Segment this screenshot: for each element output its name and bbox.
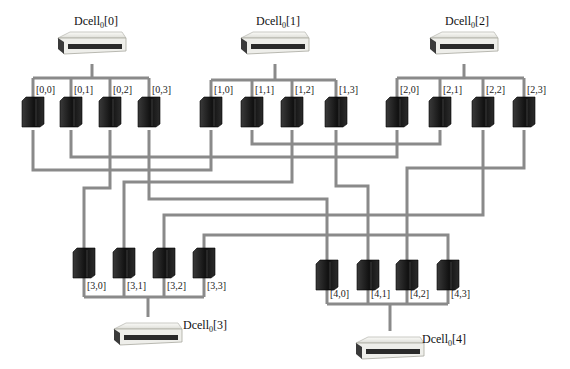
server-label: [2,2] [486, 84, 505, 95]
server-icon [429, 97, 451, 127]
server-icon [99, 97, 121, 127]
server-label: [3,0] [87, 280, 106, 291]
server-label: [4,0] [330, 288, 349, 299]
server-icon [472, 97, 494, 127]
switch-label-name: Dcell [74, 14, 100, 28]
server-icon [513, 97, 535, 127]
server-label: [3,3] [207, 280, 226, 291]
server-label: [4,1] [371, 288, 390, 299]
server-icon [73, 248, 95, 278]
servers [22, 97, 535, 290]
server-label: [2,3] [527, 84, 546, 95]
switch-label-name: Dcell [445, 14, 471, 28]
switch-label: Dcell0[4] [422, 332, 466, 348]
dcell-diagram [0, 0, 570, 369]
server-icon [200, 97, 222, 127]
switch-icon [114, 323, 182, 345]
switch-label-name: Dcell [256, 14, 282, 28]
server-icon [325, 97, 347, 127]
link-[0,3]-[4,0] [149, 130, 327, 262]
switch-label: Dcell0[2] [445, 14, 489, 30]
server-label: [3,1] [127, 280, 146, 291]
link-[2,3]-[4,2] [407, 130, 524, 262]
server-icon [138, 97, 160, 127]
link-[0,0]-[1,0] [33, 130, 211, 170]
server-label: [0,2] [113, 84, 132, 95]
switch-icon [241, 32, 309, 54]
server-icon [241, 97, 263, 127]
link-[1,3]-[4,1] [336, 130, 368, 262]
switch-icon [58, 32, 126, 54]
switch-icon [430, 32, 498, 54]
switch-label-index: [4] [452, 332, 466, 346]
server-icon [193, 248, 215, 278]
server-label: [2,1] [443, 84, 462, 95]
server-icon [22, 97, 44, 127]
server-label: [0,1] [74, 84, 93, 95]
switch-label: Dcell0[1] [256, 14, 300, 30]
server-icon [113, 248, 135, 278]
switch-label-index: [0] [104, 14, 118, 28]
switch-label-index: [1] [286, 14, 300, 28]
server-icon [60, 97, 82, 127]
server-icon [153, 248, 175, 278]
server-icon [396, 260, 418, 290]
server-icon [437, 260, 459, 290]
server-label: [4,2] [410, 288, 429, 299]
server-icon [386, 97, 408, 127]
switch-label: Dcell0[0] [74, 14, 118, 30]
switch-label-index: [2] [475, 14, 489, 28]
link-[1,1]-[2,1] [252, 130, 440, 144]
switch-label: Dcell0[3] [183, 318, 227, 334]
server-label: [1,1] [255, 84, 274, 95]
switch-label-name: Dcell [183, 318, 209, 332]
server-label: [1,3] [339, 84, 358, 95]
server-label: [1,0] [214, 84, 233, 95]
server-label: [0,3] [152, 84, 171, 95]
server-label: [1,2] [295, 84, 314, 95]
switch-label-name: Dcell [422, 332, 448, 346]
server-label: [4,3] [451, 288, 470, 299]
switch-icon [356, 337, 424, 359]
server-label: [2,0] [400, 84, 419, 95]
server-label: [3,2] [167, 280, 186, 291]
server-icon [281, 97, 303, 127]
switch-label-index: [3] [213, 318, 227, 332]
server-label: [0,0] [36, 84, 55, 95]
link-[0,2]-[3,0] [84, 130, 110, 250]
server-icon [357, 260, 379, 290]
inter-cell-links [33, 130, 524, 262]
server-icon [316, 260, 338, 290]
